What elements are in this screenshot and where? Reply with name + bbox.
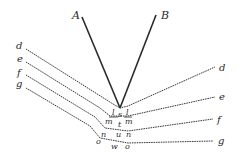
label-w: w [111,142,118,151]
label-a: A [71,9,80,22]
refraction-diagram: A B d e f g d e f g l s l m t m n u n o … [0,0,238,160]
label-left-f: f [16,67,23,78]
label-right-f: f [216,114,223,125]
label-l-right: l [126,108,129,117]
path-d [26,49,215,108]
label-n-right: n [126,130,131,139]
label-m-left: m [105,117,113,126]
label-left-g: g [16,78,22,89]
ray-a [82,17,120,108]
label-l-left: l [112,108,115,117]
diagram-canvas: A B d e f g d e f g l s l m t m n u n o … [0,0,238,160]
label-m-right: m [125,117,133,126]
ray-b [120,15,156,108]
label-o-right: o [125,142,130,151]
label-u: u [116,130,121,139]
label-b: B [160,9,169,22]
label-t: t [118,120,122,129]
label-s: s [118,110,122,119]
label-left-d: d [16,40,22,51]
label-right-d: d [219,62,225,73]
label-right-e: e [219,91,225,102]
label-left-e: e [17,53,23,64]
label-n-left: n [101,130,106,139]
label-right-g: g [218,135,224,146]
label-o-left: o [96,137,101,146]
